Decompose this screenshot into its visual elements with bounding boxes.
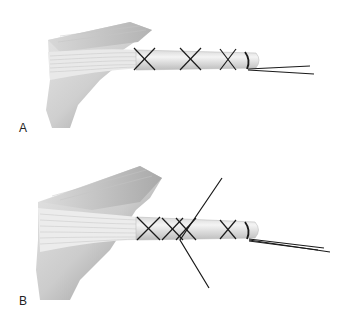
panel-a-label: A xyxy=(19,121,27,135)
muscle-sheet xyxy=(46,22,152,128)
panel-a-illustration xyxy=(0,0,345,160)
suture-technique-figure: A xyxy=(0,0,345,321)
panel-b-label: B xyxy=(19,294,27,308)
panel-b-illustration xyxy=(0,160,345,321)
panel-a: A xyxy=(0,0,345,160)
panel-b: B xyxy=(0,160,345,321)
tendon xyxy=(136,217,259,240)
